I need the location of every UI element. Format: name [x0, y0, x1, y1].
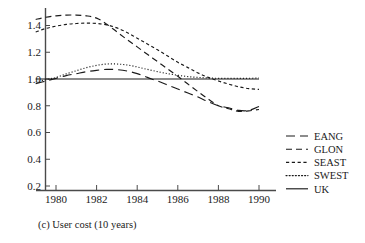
line-chart: 0.20.40.60.81.01.21.4 198019821984198619… — [0, 0, 365, 243]
y-tick-label: 1.4 — [27, 19, 41, 31]
legend-label-uk: UK — [314, 184, 330, 195]
legend-label-glon: GLON — [314, 144, 344, 155]
legend-label-eang: EANG — [314, 131, 344, 142]
y-tick-label: 0.8 — [27, 100, 41, 112]
y-tick-label: 0.4 — [27, 153, 41, 165]
x-axis-tick-labels: 198019821984198619881990 — [45, 193, 271, 205]
series-line-eang — [36, 69, 259, 111]
chart-legend: EANGGLONSEASTSWESTUK — [286, 131, 349, 195]
x-axis-tick-marks — [56, 185, 259, 191]
series-line-glon — [36, 15, 259, 112]
legend-label-seast: SEAST — [314, 157, 347, 168]
data-series-group — [36, 15, 259, 112]
x-tick-label: 1988 — [207, 193, 230, 205]
x-tick-label: 1984 — [126, 193, 149, 205]
y-axis-tick-labels: 0.20.40.60.81.01.21.4 — [27, 19, 41, 192]
y-tick-label: 1.2 — [27, 46, 41, 58]
y-tick-label: 0.6 — [27, 126, 41, 138]
x-tick-label: 1990 — [248, 193, 271, 205]
legend-label-swest: SWEST — [314, 170, 349, 181]
figure-user-cost-10-years: 0.20.40.60.81.01.21.4 198019821984198619… — [0, 0, 365, 243]
figure-caption: (c) User cost (10 years) — [38, 219, 137, 231]
x-tick-label: 1982 — [86, 193, 108, 205]
x-tick-label: 1986 — [167, 193, 190, 205]
x-tick-label: 1980 — [45, 193, 68, 205]
